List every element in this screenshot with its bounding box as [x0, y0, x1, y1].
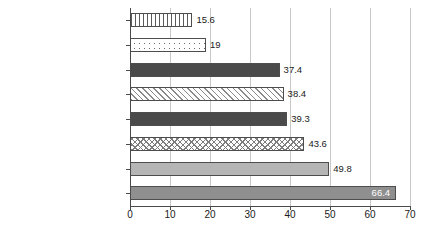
x-axis-tick-label: 50	[315, 209, 345, 220]
x-axis-tick	[130, 206, 131, 210]
bar-diagonal-hatch	[130, 87, 284, 101]
bar-chart: Homesick15.6Financial reasons19Difficult…	[0, 0, 433, 240]
bar-row: Difficult coursework37.4	[130, 58, 410, 83]
x-axis-tick-label: 60	[355, 209, 385, 220]
value-label: 39.3	[291, 107, 310, 132]
gridline-70	[410, 8, 411, 206]
x-axis-tick	[290, 206, 291, 210]
x-axis-line	[130, 206, 411, 207]
bar-row: Lack of support group39.3	[130, 107, 410, 132]
x-axis-tick	[330, 206, 331, 210]
x-axis-tick	[370, 206, 371, 210]
y-axis-line	[130, 8, 131, 206]
bar-cross-hatch	[130, 137, 304, 151]
x-axis-tick-label: 0	[115, 209, 145, 220]
value-label: 38.4	[288, 82, 307, 107]
value-label: 37.4	[284, 58, 303, 83]
x-axis-tick	[210, 206, 211, 210]
bar-row: Personal reasons38.4	[130, 82, 410, 107]
x-axis-tick	[170, 206, 171, 210]
bar-vertical-stripes	[130, 13, 192, 27]
bar-row: Unsatisfactory social life49.8	[130, 157, 410, 182]
bar-row: Unwelcoming climate43.6	[130, 132, 410, 157]
plot-area: Homesick15.6Financial reasons19Difficult…	[130, 8, 410, 206]
value-label: 43.6	[308, 132, 327, 157]
bar-row: Homesick15.6	[130, 8, 410, 33]
x-axis-tick	[410, 206, 411, 210]
bar-dots	[130, 38, 206, 52]
x-axis-tick-label: 10	[155, 209, 185, 220]
bar-dark-solid	[130, 112, 287, 126]
x-axis-tick-label: 40	[275, 209, 305, 220]
value-label: 49.8	[333, 157, 352, 182]
x-axis-tick-label: 20	[195, 209, 225, 220]
bar-dark-solid	[130, 63, 280, 77]
value-label: 66.4	[372, 181, 391, 206]
bar-row: Lack of sense of belonging66.4	[130, 181, 410, 206]
x-axis-tick	[250, 206, 251, 210]
x-axis-tick-label: 30	[235, 209, 265, 220]
bar-medium-gray-solid	[130, 186, 396, 200]
x-axis-tick-label: 70	[395, 209, 425, 220]
bar-light-gray-solid	[130, 162, 329, 176]
value-label: 15.6	[196, 8, 215, 33]
value-label: 19	[210, 33, 221, 58]
bar-row: Financial reasons19	[130, 33, 410, 58]
